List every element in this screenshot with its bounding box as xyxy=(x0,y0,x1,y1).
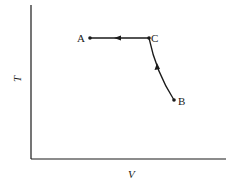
label-b: B xyxy=(178,95,185,107)
label-a: A xyxy=(77,32,85,44)
arrow-left-icon xyxy=(114,36,121,41)
x-axis-label: V xyxy=(128,168,136,180)
point-a xyxy=(88,36,92,40)
tv-diagram: V T A C B xyxy=(0,0,236,187)
arrow-up-icon xyxy=(155,63,161,70)
point-b xyxy=(172,98,176,102)
path-b-to-c xyxy=(149,38,174,100)
label-c: C xyxy=(151,32,158,44)
y-axis-label: T xyxy=(11,75,23,82)
